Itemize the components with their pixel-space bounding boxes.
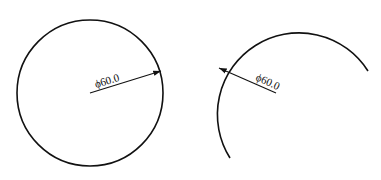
arc-outline — [217, 33, 368, 158]
drawing-canvas: ϕ60.0 ϕ60.0 — [0, 0, 381, 180]
partial-arc-figure: ϕ60.0 — [217, 33, 368, 158]
diameter-label: ϕ60.0 — [93, 71, 121, 90]
diameter-label: ϕ60.0 — [254, 71, 282, 92]
full-circle-figure: ϕ60.0 — [17, 20, 163, 166]
